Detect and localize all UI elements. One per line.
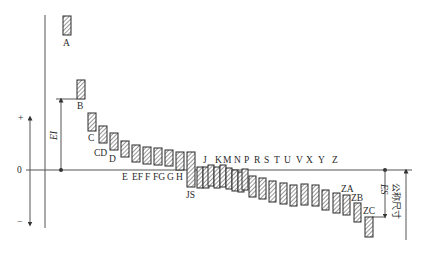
tolerance-bar-x xyxy=(301,184,308,205)
label-js: JS xyxy=(186,190,195,200)
tolerance-bar-p xyxy=(242,169,248,190)
tolerance-bar-s xyxy=(259,178,266,199)
tolerance-bar-fg xyxy=(154,148,162,165)
label-k: K xyxy=(215,155,222,165)
label-m: M xyxy=(223,155,232,165)
tolerance-bar-v xyxy=(290,185,297,206)
minus-label: − xyxy=(17,217,22,227)
tolerance-bar-ef xyxy=(132,145,140,162)
tolerance-bar-e xyxy=(121,141,129,157)
label-s: S xyxy=(264,155,269,165)
tolerance-bar-c xyxy=(88,113,96,131)
tolerance-bar-m xyxy=(220,165,226,187)
zero-label: 0 xyxy=(17,165,22,175)
tolerance-bar-m2 xyxy=(226,168,232,189)
tolerance-bar-zb xyxy=(354,203,361,222)
tolerance-bar-f xyxy=(143,147,151,164)
tolerance-bar-z xyxy=(322,190,329,210)
tolerance-zone-bars xyxy=(63,16,373,237)
label-c: C xyxy=(88,133,94,143)
tolerance-bar-r xyxy=(249,176,256,197)
tolerance-bar-t xyxy=(269,181,276,202)
label-p: P xyxy=(244,155,249,165)
label-fg: FG xyxy=(153,172,165,182)
label-d: D xyxy=(109,154,116,164)
label-cd: CD xyxy=(94,148,107,158)
tolerance-bar-a xyxy=(63,16,71,35)
label-g: G xyxy=(167,172,174,182)
label-n: N xyxy=(234,155,241,165)
tolerance-bar-za xyxy=(343,195,350,215)
label-zb: ZB xyxy=(351,193,363,203)
plus-label: + xyxy=(18,113,23,123)
label-j: J xyxy=(203,155,207,165)
es-label: ES xyxy=(379,183,389,195)
label-u: U xyxy=(284,155,291,165)
label-x: X xyxy=(306,155,313,165)
tolerance-bar-k xyxy=(208,165,214,186)
tolerance-bar-cd xyxy=(99,126,107,143)
label-t: T xyxy=(274,155,280,165)
tolerance-bar-h xyxy=(176,152,184,170)
tolerance-bar-z2 xyxy=(333,193,340,213)
tolerance-bar-b xyxy=(77,80,85,99)
label-r: R xyxy=(254,155,261,165)
label-h: H xyxy=(176,172,183,182)
tolerance-bar-d xyxy=(110,133,118,150)
tolerance-bar-zc xyxy=(365,217,373,237)
tolerance-bar-n xyxy=(232,170,238,191)
label-b: B xyxy=(77,101,83,111)
tolerance-bar-y xyxy=(312,185,319,206)
ei-origin-dot xyxy=(59,168,63,172)
label-f: F xyxy=(145,172,150,182)
tolerance-bar-g xyxy=(165,150,173,166)
nominal-size-label: 公称尺寸 xyxy=(391,183,402,219)
label-y: Y xyxy=(318,155,325,165)
deviation-letter-labels: ABCCDDEEFFFGGHJSJKMNPRSTUVXYZZAZBZC xyxy=(63,38,375,216)
label-v: V xyxy=(296,155,303,165)
label-e: E xyxy=(122,172,128,182)
tolerance-bar-u xyxy=(280,183,287,204)
tolerance-bar-j xyxy=(197,167,203,188)
label-zc: ZC xyxy=(363,206,375,216)
tolerance-bar-js xyxy=(187,152,195,187)
fundamental-deviation-diagram: + − 0 EI ES 公称尺寸 ABCCDDEEFFFGGHJSJKMNPRS… xyxy=(0,0,427,255)
label-ef: EF xyxy=(132,172,143,182)
ei-label: EI xyxy=(49,130,59,141)
label-z: Z xyxy=(332,155,338,165)
label-a: A xyxy=(63,38,70,48)
tolerance-bar-k2 xyxy=(214,167,220,188)
